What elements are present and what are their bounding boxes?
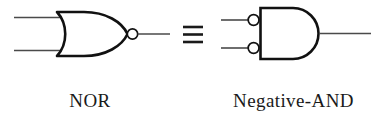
or-gate-body [57, 12, 128, 56]
logic-gate-equivalence-figure: NOR Negative-AND [0, 0, 387, 120]
negative-and-gate-label: Negative-AND [200, 90, 387, 112]
equivalence-symbol-icon [183, 27, 203, 42]
nand-input-bubble-top-icon [248, 15, 259, 26]
nor-gate-group [14, 12, 170, 56]
negative-and-gate-group [221, 8, 371, 59]
nor-output-bubble-icon [127, 29, 137, 39]
and-gate-body [261, 8, 319, 59]
nand-input-bubble-bottom-icon [248, 43, 259, 54]
nor-gate-label: NOR [0, 90, 180, 112]
